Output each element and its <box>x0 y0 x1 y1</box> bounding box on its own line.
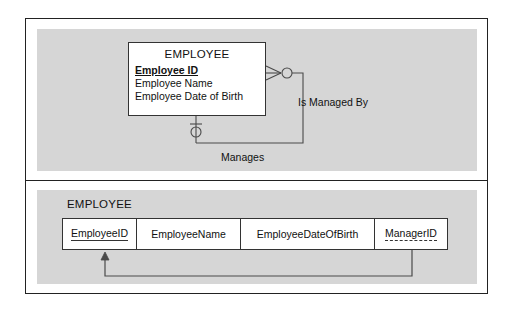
entity-attribute-primary-key: Employee ID <box>135 64 265 77</box>
relation-column-employeename-label: EmployeeName <box>151 228 226 240</box>
entity-box-employee[interactable]: EMPLOYEE Employee ID Employee Name Emplo… <box>128 42 266 116</box>
relation-column-employeeid[interactable]: EmployeeID <box>63 219 137 249</box>
panel-divider <box>25 180 488 181</box>
entity-title: EMPLOYEE <box>129 47 265 62</box>
relation-name-label: EMPLOYEE <box>67 198 132 210</box>
relation-table-employee[interactable]: EmployeeID EmployeeName EmployeeDateOfBi… <box>62 218 448 250</box>
relation-column-employeename[interactable]: EmployeeName <box>137 219 241 249</box>
relationship-label-is-managed-by: Is Managed By <box>298 96 368 108</box>
er-diagram-figure: EMPLOYEE Employee ID Employee Name Emplo… <box>0 0 513 313</box>
entity-attribute-employee-name: Employee Name <box>135 77 265 90</box>
relationship-label-manages: Manages <box>221 151 264 163</box>
relation-column-managerid[interactable]: ManagerID <box>375 219 447 249</box>
relation-column-employeedateofbirth-label: EmployeeDateOfBirth <box>257 228 359 240</box>
relation-column-employeedateofbirth[interactable]: EmployeeDateOfBirth <box>241 219 375 249</box>
entity-attribute-employee-dob: Employee Date of Birth <box>135 90 265 103</box>
relation-column-employeeid-label: EmployeeID <box>71 227 128 241</box>
entity-attribute-list: Employee ID Employee Name Employee Date … <box>135 64 265 103</box>
relation-column-managerid-label: ManagerID <box>385 227 437 241</box>
